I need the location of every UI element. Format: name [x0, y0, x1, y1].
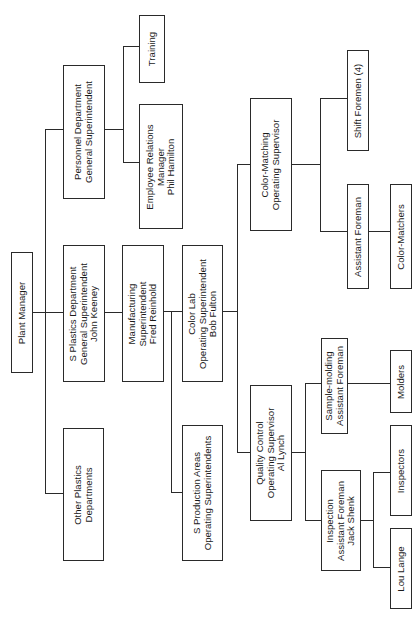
connector-line	[305, 383, 321, 384]
node-label: Sample-molding	[324, 346, 335, 426]
node-quality-control: Quality Control Operating Supervisor Al …	[250, 385, 292, 521]
node-personnel-department: Personnel Department General Superintend…	[63, 65, 105, 199]
node-s-plastics-department: S Plastics Department General Superinten…	[63, 245, 105, 382]
node-color-lab: Color Lab Operating Superintendent Bob F…	[182, 245, 223, 382]
node-inspection: Inspection Assistant Foreman Jack Shenk	[321, 470, 361, 571]
connector-line	[32, 312, 63, 313]
node-label: Color-Matching	[260, 119, 271, 210]
connector-line	[291, 452, 306, 453]
node-label: Manufacturing	[127, 281, 138, 346]
node-shift-foremen: Shift Foremen (4)	[347, 50, 369, 151]
node-inspectors: Inspectors	[390, 425, 412, 516]
connector-line	[163, 311, 182, 312]
connector-line	[237, 164, 238, 453]
node-label: Inspectors	[396, 448, 407, 492]
node-training: Training	[139, 15, 165, 83]
node-employee-relations: Employee Relations Manager Phil Hamilton	[139, 104, 183, 229]
node-label: Assistant Foreman	[335, 346, 346, 426]
connector-line	[104, 312, 122, 313]
node-other-plastics-departments: Other Plastics Departments	[63, 428, 104, 561]
node-label: Training	[147, 32, 158, 66]
connector-line	[320, 98, 347, 99]
node-label: General Superintendent	[84, 81, 95, 183]
connector-line	[320, 98, 321, 232]
connector-line	[171, 311, 172, 493]
connector-line	[368, 231, 390, 232]
node-label: Operating Superintendents	[203, 436, 214, 551]
connector-line	[237, 164, 250, 165]
node-label: John Keeney	[89, 263, 100, 365]
connector-line	[123, 162, 139, 163]
node-label: Other Plastics	[73, 465, 84, 525]
node-label: Shift Foremen (4)	[353, 63, 364, 138]
node-label: Plant Manager	[17, 281, 28, 343]
connector-line	[291, 164, 321, 165]
node-label: S Production Areas	[192, 436, 203, 551]
node-label: Molders	[396, 364, 407, 398]
connector-line	[305, 520, 321, 521]
connector-line	[305, 383, 306, 521]
connector-line	[347, 383, 390, 384]
connector-line	[171, 492, 182, 493]
node-label: Color-Matchers	[396, 204, 407, 270]
connector-line	[123, 46, 139, 47]
node-label: Assistant Foreman	[353, 197, 364, 277]
node-label: Jack Shenk	[346, 481, 357, 561]
node-s-production-areas: S Production Areas Operating Superintend…	[182, 425, 223, 561]
connector-line	[222, 311, 238, 312]
node-label: Bob Fulton	[208, 259, 219, 369]
node-label: Color Lab	[187, 259, 198, 369]
node-plant-manager: Plant Manager	[11, 252, 33, 373]
connector-line	[123, 46, 124, 163]
node-label: Operating Superintendent	[197, 259, 208, 369]
node-label: Lou Lange	[396, 546, 407, 591]
node-label: S Plastics Department	[68, 263, 79, 365]
connector-line	[320, 231, 347, 232]
connector-line	[45, 129, 46, 494]
connector-line	[45, 129, 63, 130]
node-label: Phil Hamilton	[166, 124, 177, 209]
connector-line	[104, 129, 124, 130]
connector-line	[373, 472, 390, 473]
node-molders: Molders	[390, 350, 412, 413]
node-color-matching: Color-Matching Operating Supervisor	[250, 98, 292, 231]
node-label: Fred Reinhold	[148, 281, 159, 346]
connector-line	[373, 567, 390, 568]
node-label: Quality Control	[255, 408, 266, 499]
node-manufacturing: Manufacturing Superintendent Fred Reinho…	[122, 245, 164, 382]
node-label: Inspection	[325, 481, 336, 561]
node-label: Employee Relations	[145, 124, 156, 209]
connector-line	[373, 472, 374, 568]
node-label: Personnel Department	[73, 81, 84, 183]
node-sample-molding: Sample-molding Assistant Foreman	[321, 338, 348, 434]
node-label: Departments	[84, 465, 95, 525]
connector-line	[360, 520, 374, 521]
node-color-matchers: Color-Matchers	[390, 184, 412, 289]
node-assistant-foreman: Assistant Foreman	[347, 184, 369, 289]
node-label: Al Lynch	[276, 408, 287, 499]
connector-line	[237, 452, 250, 453]
org-chart: Plant Manager Personnel Department Gener…	[0, 0, 412, 627]
connector-line	[45, 493, 63, 494]
node-label: Operating Supervisor	[271, 119, 282, 210]
node-lou-lange: Lou Lange	[390, 528, 412, 609]
